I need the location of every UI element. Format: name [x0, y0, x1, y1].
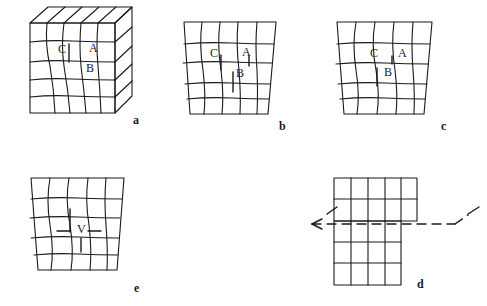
diagram-canvas [0, 0, 487, 306]
panel-b-grid [183, 22, 276, 114]
panel-e-grid [30, 178, 124, 270]
figure-root: C A B a C A B b C A B c V e d [0, 0, 487, 306]
panel-c-grid [336, 22, 432, 114]
panel-d-grid [334, 178, 417, 285]
panel-a-block [30, 7, 132, 113]
slip-direction-arrow [312, 207, 479, 229]
